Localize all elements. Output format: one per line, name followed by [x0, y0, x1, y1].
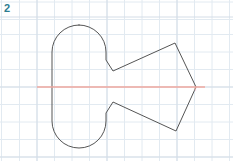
axis-label: ℓ	[194, 86, 197, 93]
figure-drawing	[0, 0, 233, 161]
problem-number: 2	[4, 2, 10, 15]
figure-canvas: 2 ℓ	[0, 0, 233, 161]
